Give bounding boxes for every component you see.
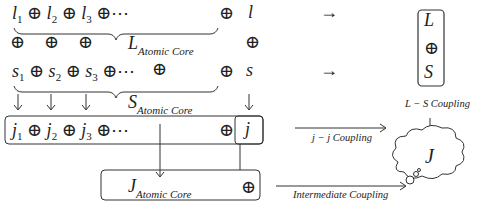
s2: s <box>49 61 56 81</box>
oplus: ⊕ <box>27 3 42 23</box>
oplus-ellipsis: ⊕⋯ <box>96 120 129 140</box>
oplus: ⊕ <box>78 31 93 53</box>
oplus: ⊕ <box>219 119 234 141</box>
l-atomic-core: LAtomic Core <box>128 33 194 57</box>
oplus: ⊕ <box>62 120 77 140</box>
sub: 3 <box>92 71 98 83</box>
atomic-core-sub: Atomic Core <box>136 188 192 200</box>
sub: 3 <box>86 130 92 142</box>
oplus: ⊕ <box>152 58 167 80</box>
S-symbol: S <box>128 92 137 112</box>
oplus: ⊕ <box>245 31 260 53</box>
sub: 1 <box>17 130 23 142</box>
oplus-ellipsis: ⊕⋯ <box>102 61 135 81</box>
ls-box-S: S <box>424 62 433 83</box>
oplus: ⊕ <box>29 61 44 81</box>
j-row: j1 ⊕ j2 ⊕ j3 ⊕⋯ <box>12 119 129 142</box>
result-J: J <box>425 145 434 168</box>
oplus: ⊕ <box>27 120 42 140</box>
right-arrow-icon: → <box>320 60 338 81</box>
s1: s <box>12 61 19 81</box>
oplus: ⊕ <box>66 61 81 81</box>
sub: 2 <box>56 71 62 83</box>
oplus: ⊕ <box>62 3 77 23</box>
s-row: s1 ⊕ s2 ⊕ s3 ⊕⋯ <box>12 60 135 83</box>
oplus: ⊕ <box>219 60 234 82</box>
sub: 1 <box>17 13 23 25</box>
oplus: ⊕ <box>44 31 59 53</box>
L-symbol: L <box>128 33 138 53</box>
right-arrow-icon: → <box>320 2 338 23</box>
J-symbol: J <box>128 176 136 196</box>
l-total: l <box>248 2 253 23</box>
oplus: ⊕ <box>241 176 256 198</box>
s-total: s <box>246 60 253 81</box>
sub: 2 <box>52 13 58 25</box>
oplus-ellipsis: ⊕⋯ <box>96 3 129 23</box>
oplus: ⊕ <box>219 2 234 24</box>
atomic-core-sub: Atomic Core <box>137 104 193 116</box>
atomic-core-sub: Atomic Core <box>138 45 194 57</box>
j-atomic-core: JAtomic Core <box>128 176 192 200</box>
l-row: l1 ⊕ l2 ⊕ l3 ⊕⋯ <box>12 2 129 25</box>
ls-box-L: L <box>424 10 434 31</box>
sub: 2 <box>52 130 58 142</box>
ls-box-oplus: ⊕ <box>424 37 439 59</box>
j-total: j <box>245 119 250 140</box>
sub: 1 <box>19 71 25 83</box>
s-atomic-core: SAtomic Core <box>128 92 193 116</box>
oplus: ⊕ <box>10 31 25 53</box>
ls-coupling-label: L − S Coupling <box>405 98 470 109</box>
jj-coupling-label: j − j Coupling <box>312 132 372 143</box>
intermediate-coupling-label: Intermediate Coupling <box>293 189 388 200</box>
sub: 3 <box>86 13 92 25</box>
